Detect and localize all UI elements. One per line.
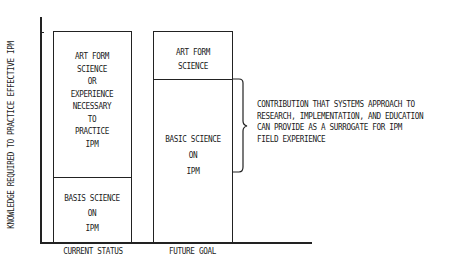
note-line: FIELD EXPERIENCE: [257, 134, 423, 146]
note-line: CONTRIBUTION THAT SYSTEMS APPROACH TO: [257, 99, 423, 111]
note-line: RESEARCH, IMPLEMENTATION, AND EDUCATION: [257, 111, 423, 123]
segment-line: IPM: [159, 163, 227, 179]
segment-line: OR: [59, 75, 125, 88]
segment-line: NECESSARY: [59, 100, 125, 113]
segment-line: ON: [159, 147, 227, 163]
segment-line: EXPERIENCE: [59, 88, 125, 101]
segment-line: TO: [59, 113, 125, 126]
segment-line: SCIENCE: [159, 59, 227, 73]
segment-line: SCIENCE: [59, 63, 125, 76]
bracket-note: CONTRIBUTION THAT SYSTEMS APPROACH TO RE…: [257, 99, 423, 145]
segment-line: ON: [59, 206, 125, 221]
future-goal-label: FUTURE GOAL: [156, 246, 228, 256]
curly-brace-icon: [231, 77, 257, 175]
future-basic-science-segment: BASIC SCIENCE ON IPM: [159, 131, 227, 179]
y-axis: [40, 17, 42, 243]
segment-line: IPM: [59, 138, 125, 151]
future-goal-divider: [153, 79, 232, 80]
current-status-label: CURRENT STATUS: [55, 246, 132, 256]
future-art-form-segment: ART FORM SCIENCE: [159, 45, 227, 73]
segment-line: BASIC SCIENCE: [159, 131, 227, 147]
segment-line: PRACTICE: [59, 125, 125, 138]
current-status-divider: [53, 177, 131, 178]
current-art-form-segment: ART FORM SCIENCE OR EXPERIENCE NECESSARY…: [59, 50, 125, 150]
segment-line: IPM: [59, 221, 125, 236]
y-axis-label: KNOWLEDGE REQUIRED TO PRACTICE EFFECTIVE…: [6, 41, 16, 229]
note-line: CAN PROVIDE AS A SURROGATE FOR IPM: [257, 122, 423, 134]
segment-line: BASIS SCIENCE: [59, 191, 125, 206]
segment-line: ART FORM: [59, 50, 125, 63]
y-axis-tick: [40, 32, 44, 33]
segment-line: ART FORM: [159, 45, 227, 59]
current-basic-science-segment: BASIS SCIENCE ON IPM: [59, 191, 125, 236]
